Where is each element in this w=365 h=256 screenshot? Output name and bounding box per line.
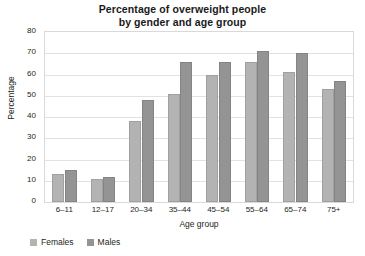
- bar-males-6[interactable]: [296, 53, 308, 202]
- legend-item-females[interactable]: Females: [30, 238, 74, 247]
- y-tick-label: 60: [27, 70, 36, 78]
- bar-group: [161, 32, 200, 202]
- bar-females-6[interactable]: [283, 72, 295, 202]
- x-tick-label: 45–54: [199, 205, 238, 214]
- x-axis-tick-labels: 6–1112–1720–3435–4445–5455–6465–7475+: [45, 205, 353, 217]
- bar-group: [315, 32, 354, 202]
- y-tick-label: 20: [27, 155, 36, 163]
- bar-males-5[interactable]: [257, 51, 269, 202]
- bar-group: [45, 32, 84, 202]
- y-tick-label: 70: [27, 48, 36, 56]
- bar-group: [199, 32, 238, 202]
- bar-females-4[interactable]: [206, 75, 218, 203]
- legend-item-males[interactable]: Males: [87, 238, 121, 247]
- legend-swatch-icon: [87, 239, 94, 246]
- x-tick-label: 6–11: [45, 205, 84, 214]
- legend-swatch-icon: [30, 239, 37, 246]
- bar-females-0[interactable]: [52, 174, 64, 202]
- y-tick-label: 0: [32, 197, 36, 205]
- y-axis-tick-labels: 01020304050607080: [0, 31, 40, 203]
- legend-label: Females: [41, 238, 74, 247]
- x-tick-label: 12–17: [84, 205, 123, 214]
- legend-label: Males: [98, 238, 121, 247]
- x-axis-title: Age group: [44, 219, 354, 229]
- bar-males-1[interactable]: [103, 177, 115, 203]
- y-tick-label: 10: [27, 176, 36, 184]
- bars-layer: [45, 32, 353, 202]
- bar-group: [276, 32, 315, 202]
- x-tick-label: 65–74: [276, 205, 315, 214]
- y-tick-label: 40: [27, 112, 36, 120]
- y-tick-label: 50: [27, 91, 36, 99]
- bar-group: [84, 32, 123, 202]
- x-tick-label: 75+: [315, 205, 354, 214]
- bar-females-1[interactable]: [91, 179, 103, 202]
- bar-males-3[interactable]: [180, 62, 192, 202]
- x-tick-label: 35–44: [161, 205, 200, 214]
- bar-females-7[interactable]: [322, 89, 334, 202]
- x-tick-label: 20–34: [122, 205, 161, 214]
- bar-females-5[interactable]: [245, 62, 257, 202]
- bar-group: [238, 32, 277, 202]
- bar-males-2[interactable]: [142, 100, 154, 202]
- chart-title-line-1: Percentage of overweight people: [0, 3, 365, 16]
- chart-title: Percentage of overweight people by gende…: [0, 3, 365, 28]
- bar-males-4[interactable]: [219, 62, 231, 202]
- bar-females-2[interactable]: [129, 121, 141, 202]
- y-tick-label: 80: [27, 27, 36, 35]
- chart-title-line-2: by gender and age group: [0, 16, 365, 29]
- bar-females-3[interactable]: [168, 94, 180, 202]
- x-tick-label: 55–64: [238, 205, 277, 214]
- y-tick-label: 30: [27, 133, 36, 141]
- chart-legend: FemalesMales: [30, 238, 120, 247]
- bar-chart: Percentage of overweight people by gende…: [0, 0, 365, 256]
- bar-males-0[interactable]: [65, 170, 77, 202]
- bar-group: [122, 32, 161, 202]
- bar-males-7[interactable]: [334, 81, 346, 202]
